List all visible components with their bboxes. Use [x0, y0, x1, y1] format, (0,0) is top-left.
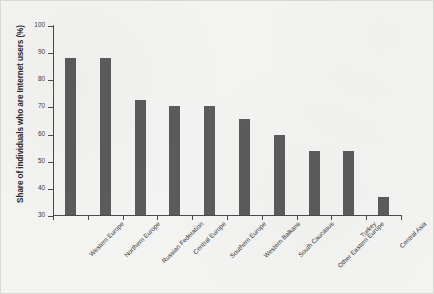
x-axis-label: Central Asia: [398, 220, 428, 250]
x-tick-9: [366, 216, 367, 220]
x-axis-label: Other Eastern Europe: [336, 220, 386, 270]
y-tick-50: 50: [48, 162, 53, 163]
x-axis-label: Northern Europe: [123, 220, 162, 259]
y-axis-title: Share of individuals who are Internet us…: [15, 15, 27, 213]
y-tick-70: 70: [48, 107, 53, 108]
x-tick-7: [297, 216, 298, 220]
bar: [169, 106, 180, 215]
y-tick-80: 80: [48, 80, 53, 81]
x-tick-2: [123, 216, 124, 220]
y-tick-100: 100: [48, 26, 53, 27]
y-tick-label-60: 60: [38, 130, 45, 137]
y-tick-90: 90: [48, 53, 53, 54]
x-axis-label: Western Balkans: [263, 220, 303, 260]
bar: [100, 58, 111, 215]
bar: [204, 106, 215, 215]
x-tick-3: [157, 216, 158, 220]
bar: [274, 135, 285, 215]
x-tick-4: [192, 216, 193, 220]
bar: [309, 151, 320, 215]
y-tick-label-70: 70: [38, 102, 45, 109]
bar: [239, 119, 250, 215]
bar: [343, 151, 354, 215]
bar: [135, 100, 146, 215]
x-axis-label: Western Europe: [88, 220, 126, 258]
bar: [65, 58, 76, 215]
y-tick-label-100: 100: [34, 21, 45, 28]
x-tick-10: [401, 216, 402, 220]
y-tick-label-50: 50: [38, 157, 45, 164]
y-axis-line: [53, 25, 54, 216]
y-tick-40: 40: [48, 189, 53, 190]
bar: [378, 197, 389, 215]
x-tick-8: [331, 216, 332, 220]
y-tick-label-30: 30: [38, 211, 45, 218]
y-tick-label-80: 80: [38, 75, 45, 82]
y-tick-60: 60: [48, 135, 53, 136]
x-tick-1: [88, 216, 89, 220]
x-axis-label: South Caucasus: [297, 220, 336, 259]
bar-chart-figure: Share of individuals who are Internet us…: [0, 0, 434, 294]
y-tick-label-90: 90: [38, 48, 45, 55]
plot-area: 30405060708090100: [53, 26, 401, 216]
x-tick-0: [53, 216, 54, 220]
y-tick-label-40: 40: [38, 184, 45, 191]
x-tick-5: [227, 216, 228, 220]
